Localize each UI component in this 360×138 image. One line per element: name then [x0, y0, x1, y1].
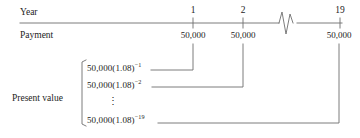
- connector-term-1: [151, 44, 193, 70]
- present-value-term-2-base: 50,000(1.08): [87, 80, 135, 90]
- axis-break-zigzag: [279, 12, 293, 34]
- present-value-term-19-base: 50,000(1.08): [87, 115, 135, 125]
- payment-amount-2: 50,000: [231, 31, 256, 40]
- present-value-term-2-exponent: −2: [135, 78, 142, 85]
- diagram-lines: [0, 0, 360, 138]
- connector-term-n: [158, 44, 339, 123]
- payment-amount-19: 50,000: [327, 31, 352, 40]
- present-value-term-2: 50,000(1.08)−2: [87, 81, 142, 90]
- present-value-term-19-exponent: −19: [135, 113, 145, 120]
- present-value-term-1-exponent: −1: [135, 61, 142, 68]
- payment-amount-1: 50,000: [181, 31, 206, 40]
- present-value-term-1: 50,000(1.08)−1: [87, 64, 142, 73]
- row-label-payment: Payment: [20, 31, 53, 41]
- vertical-ellipsis-icon: ⋮: [108, 96, 118, 106]
- present-value-term-1-base: 50,000(1.08): [87, 63, 135, 73]
- connector-term-2: [152, 44, 243, 87]
- present-value-term-19: 50,000(1.08)−19: [87, 116, 145, 125]
- year-tick-label-2: 2: [241, 6, 246, 16]
- row-label-year: Year: [20, 8, 38, 18]
- present-value-brace: [82, 60, 86, 126]
- row-label-present-value: Present value: [12, 94, 63, 104]
- year-tick-label-19: 19: [335, 6, 345, 16]
- year-tick-label-1: 1: [191, 6, 196, 16]
- annuity-timeline-figure: Year Payment Present value 1 2 19 50,000…: [0, 0, 360, 138]
